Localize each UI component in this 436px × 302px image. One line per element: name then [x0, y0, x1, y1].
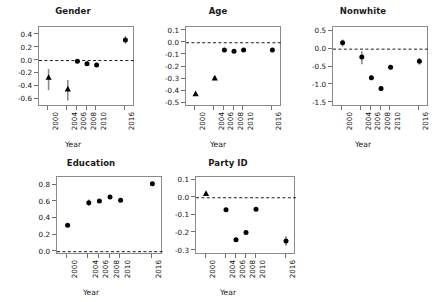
x-axis-tick-label: 2008: [112, 260, 121, 290]
y-axis-tick-label: -0.2: [0, 68, 32, 77]
y-axis-tick: [52, 217, 56, 218]
x-axis-tick-label: 2006: [101, 260, 110, 290]
y-axis-tick-label: 0.0: [0, 55, 32, 64]
data-layer: [186, 27, 280, 105]
y-axis-tick: [52, 200, 56, 201]
y-axis-tick: [181, 78, 185, 79]
x-axis-tick: [98, 254, 99, 258]
y-axis-tick: [34, 46, 38, 47]
y-axis-tick-label: 0.4: [18, 213, 50, 222]
x-axis-tick-label: 2008: [89, 112, 98, 142]
x-axis-tick-label: 2008: [383, 112, 392, 142]
y-axis-tick: [181, 66, 185, 67]
y-axis-tick: [191, 196, 195, 197]
y-axis-tick: [34, 59, 38, 60]
x-axis-title: Year: [0, 140, 146, 149]
y-axis-tick: [181, 90, 185, 91]
data-point-circle: [118, 198, 123, 203]
x-axis-tick: [213, 106, 214, 110]
x-axis-tick-label: 2000: [345, 112, 354, 142]
x-axis-tick-label: 2006: [373, 112, 382, 142]
x-axis-tick-label: 2000: [70, 260, 79, 290]
y-axis-tick: [34, 85, 38, 86]
y-axis-tick-label: -0.5: [145, 98, 179, 107]
x-axis-tick-label: 2004: [364, 112, 373, 142]
panel-title: Nonwhite: [290, 6, 436, 16]
x-axis-tick-label: 2010: [99, 112, 108, 142]
data-point-triangle: [203, 190, 209, 196]
x-axis-tick-label: 2004: [70, 112, 79, 142]
y-axis-tick-label: 0.6: [18, 196, 50, 205]
x-axis-tick: [341, 106, 342, 110]
x-axis-tick-label: 2016: [127, 112, 136, 142]
data-point-circle: [379, 86, 384, 91]
y-axis-tick-label: -0.4: [145, 86, 179, 95]
y-axis-tick: [181, 29, 185, 30]
plot-area: [195, 176, 295, 254]
y-axis-tick-label: 0.0: [18, 246, 50, 255]
y-axis-tick-label: -1.0: [290, 79, 326, 88]
plot-area: [38, 26, 134, 106]
plot-area: [185, 26, 281, 106]
panel-title: Education: [18, 158, 164, 168]
x-axis-tick: [151, 254, 152, 258]
x-axis-tick-label: 2016: [274, 112, 283, 142]
y-axis-tick: [328, 48, 332, 49]
data-point-circle: [284, 238, 289, 243]
data-point-circle: [97, 199, 102, 204]
y-axis-tick-label: -0.1: [155, 210, 189, 219]
x-axis-tick: [271, 106, 272, 110]
x-axis-tick: [233, 106, 234, 110]
y-axis-tick-label: 0.1: [145, 25, 179, 34]
y-axis-tick-label: -0.3: [155, 245, 189, 254]
panel-title: Party ID: [155, 158, 301, 168]
x-axis-tick-label: 2016: [421, 112, 430, 142]
x-axis-tick-label: 2016: [288, 260, 297, 290]
data-layer: [333, 27, 427, 105]
x-axis-tick: [225, 254, 226, 258]
x-axis-title: Year: [145, 140, 291, 149]
x-axis-tick: [245, 254, 246, 258]
data-point-circle: [224, 207, 229, 212]
x-axis-tick-label: 2004: [91, 260, 100, 290]
data-point-triangle: [46, 74, 52, 80]
y-axis-tick: [52, 184, 56, 185]
data-point-circle: [75, 59, 80, 64]
data-point-circle: [340, 40, 345, 45]
x-axis-tick: [418, 106, 419, 110]
x-axis-tick: [389, 106, 390, 110]
x-axis-tick-label: 2010: [246, 112, 255, 142]
y-axis-tick-label: -0.2: [155, 227, 189, 236]
data-point-circle: [65, 223, 70, 228]
x-axis-tick-label: 2006: [79, 112, 88, 142]
data-point-circle: [94, 63, 99, 68]
x-axis-tick-label: 2010: [393, 112, 402, 142]
x-axis-tick: [109, 254, 110, 258]
y-axis-tick: [191, 231, 195, 232]
y-axis-tick-label: -0.2: [145, 62, 179, 71]
y-axis-tick: [191, 179, 195, 180]
data-point-triangle: [65, 86, 71, 92]
x-axis-tick-label: 2010: [123, 260, 132, 290]
data-point-circle: [241, 48, 246, 53]
y-axis-tick: [328, 66, 332, 67]
x-axis-tick: [223, 106, 224, 110]
x-axis-tick: [119, 254, 120, 258]
data-point-circle: [85, 61, 90, 66]
x-axis-tick-label: 2004: [217, 112, 226, 142]
x-axis-tick: [255, 254, 256, 258]
y-axis-tick-label: 0.8: [18, 180, 50, 189]
y-axis-tick: [191, 214, 195, 215]
data-layer: [39, 27, 133, 105]
data-point-circle: [222, 48, 227, 53]
x-axis-tick: [124, 106, 125, 110]
data-point-circle: [388, 65, 393, 70]
panel-nonwhite: Nonwhite 0.50.0-0.5-1.0-1.52000200420062…: [290, 6, 436, 156]
y-axis-tick-label: 0.2: [18, 230, 50, 239]
y-axis-tick-label: 0.0: [155, 192, 189, 201]
x-axis-tick-label: 2008: [236, 112, 245, 142]
y-axis-tick-label: -0.3: [145, 74, 179, 83]
y-axis-tick: [181, 102, 185, 103]
y-axis-tick: [181, 53, 185, 54]
y-axis-tick-label: -0.1: [145, 49, 179, 58]
